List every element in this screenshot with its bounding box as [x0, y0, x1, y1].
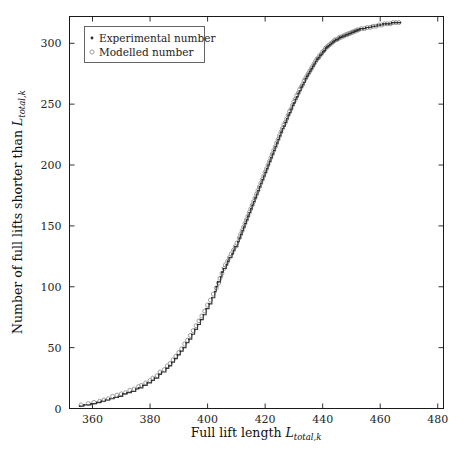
data-point-experimental: [238, 237, 240, 239]
data-point-experimental: [259, 186, 261, 188]
data-point-experimental: [254, 197, 256, 199]
data-point-experimental: [329, 44, 331, 46]
legend-label-modelled: Modelled number: [99, 46, 194, 58]
data-point-experimental: [343, 35, 345, 37]
data-point-experimental: [391, 22, 393, 24]
data-point-experimental: [215, 286, 217, 288]
x-tick-label: 380: [140, 413, 161, 426]
data-point-experimental: [105, 399, 107, 401]
data-point-experimental: [174, 358, 176, 360]
data-point-experimental: [177, 354, 179, 356]
data-point-experimental: [264, 171, 266, 173]
data-point-experimental: [312, 66, 314, 68]
data-point-experimental: [142, 385, 144, 387]
data-point-experimental: [318, 57, 320, 59]
data-point-experimental: [234, 246, 236, 248]
legend-marker-experimental-dot-icon: [91, 37, 94, 40]
data-point-experimental: [267, 164, 269, 166]
data-point-experimental: [138, 387, 140, 389]
data-point-experimental: [96, 402, 98, 404]
data-point-experimental: [310, 68, 312, 70]
data-point-experimental: [113, 397, 115, 399]
data-point-experimental: [379, 24, 381, 26]
data-point-experimental: [280, 131, 282, 133]
data-point-experimental: [323, 50, 325, 52]
data-point-experimental: [260, 182, 262, 184]
data-point-experimental: [122, 393, 124, 395]
data-point-experimental: [316, 58, 318, 60]
data-point-experimental: [161, 371, 163, 373]
data-point-experimental: [185, 342, 187, 344]
data-point-experimental: [217, 281, 219, 283]
data-point-experimental: [273, 150, 275, 152]
data-point-experimental: [263, 175, 265, 177]
data-point-experimental: [394, 22, 396, 24]
y-tick-label: 150: [41, 220, 62, 233]
data-point-experimental: [382, 23, 384, 25]
y-tick-label: 0: [55, 403, 62, 416]
data-point-experimental: [214, 291, 216, 293]
data-point-experimental: [362, 28, 364, 30]
data-point-experimental: [220, 276, 222, 278]
data-point-experimental: [276, 142, 278, 144]
data-point-experimental: [325, 47, 327, 49]
chart-figure: 360380400420440460480 050100150200250300…: [0, 0, 473, 454]
data-point-experimental: [358, 29, 360, 31]
data-point-experimental: [319, 55, 321, 57]
data-point-experimental: [182, 347, 184, 349]
data-point-experimental: [90, 403, 92, 405]
data-point-experimental: [221, 271, 223, 273]
data-point-experimental: [248, 212, 250, 214]
data-point-experimental: [269, 161, 271, 163]
x-tick-label: 480: [427, 413, 448, 426]
data-point-experimental: [208, 303, 210, 305]
data-point-experimental: [302, 84, 304, 86]
data-point-experimental: [202, 314, 204, 316]
data-point-experimental: [388, 23, 390, 25]
data-point-experimental: [135, 388, 137, 390]
data-point-experimental: [374, 25, 376, 27]
data-point-experimental: [194, 329, 196, 331]
data-point-experimental: [355, 30, 357, 32]
data-point-experimental: [188, 338, 190, 340]
data-point-experimental: [289, 112, 291, 114]
x-tick-label: 400: [197, 413, 218, 426]
data-point-experimental: [271, 153, 273, 155]
data-point-experimental: [250, 208, 252, 210]
data-point-experimental: [225, 264, 227, 266]
data-point-experimental: [257, 190, 259, 192]
data-point-experimental: [294, 98, 296, 100]
y-tick-label: 300: [41, 37, 62, 50]
data-point-experimental: [299, 90, 301, 92]
data-point-experimental: [336, 39, 338, 41]
data-point-experimental: [165, 367, 167, 369]
data-point-experimental: [306, 75, 308, 77]
y-axis-title: Number of full lifts shorter thanLtotal,…: [10, 90, 27, 334]
data-point-experimental: [205, 308, 207, 310]
data-point-experimental: [286, 118, 288, 120]
data-point-experimental: [376, 24, 378, 26]
data-point-experimental: [397, 22, 399, 24]
data-point-experimental: [168, 365, 170, 367]
data-point-experimental: [284, 122, 286, 124]
data-point-experimental: [328, 45, 330, 47]
plot-canvas: 360380400420440460480 050100150200250300…: [0, 0, 473, 454]
data-point-experimental: [223, 268, 225, 270]
data-point-experimental: [309, 70, 311, 72]
data-point-experimental: [131, 391, 133, 393]
y-tick-label: 100: [41, 281, 62, 294]
data-point-experimental: [256, 193, 258, 195]
data-point-experimental: [359, 28, 361, 30]
data-point-experimental: [296, 96, 298, 98]
data-point-experimental: [253, 201, 255, 203]
data-point-experimental: [338, 38, 340, 40]
data-point-experimental: [332, 41, 334, 43]
data-point-experimental: [346, 34, 348, 36]
data-point-experimental: [126, 392, 128, 394]
data-point-experimental: [385, 23, 387, 25]
data-point-experimental: [237, 241, 239, 243]
data-point-experimental: [292, 105, 294, 107]
data-point-experimental: [315, 61, 317, 63]
data-point-experimental: [300, 86, 302, 88]
data-point-experimental: [146, 382, 148, 384]
